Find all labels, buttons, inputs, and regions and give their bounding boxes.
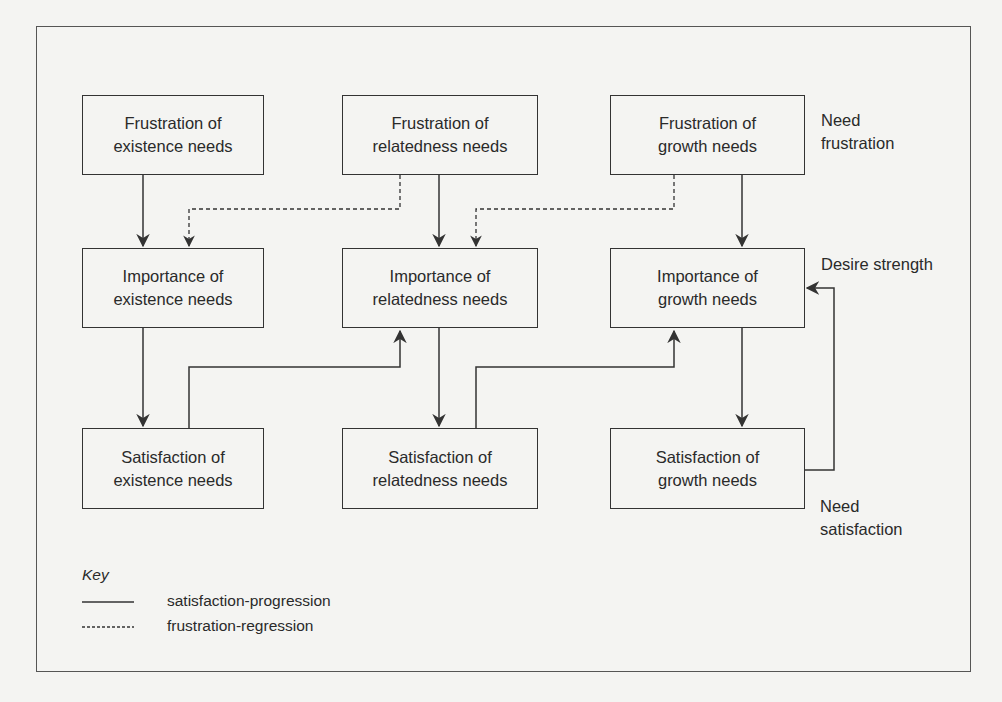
box-importance-existence: Importance of existence needs (82, 248, 264, 328)
side-label-desire-strength: Desire strength (821, 253, 933, 276)
side-label-need-satisfaction: Need satisfaction (820, 495, 903, 541)
box-importance-growth: Importance of growth needs (610, 248, 805, 328)
key-dashed-label: frustration-regression (167, 617, 313, 635)
box-label: Importance of existence needs (113, 265, 232, 311)
box-label: Satisfaction of growth needs (656, 446, 760, 492)
box-label: Importance of relatedness needs (373, 265, 508, 311)
box-satisfaction-growth: Satisfaction of growth needs (610, 428, 805, 509)
box-satisfaction-relatedness: Satisfaction of relatedness needs (342, 428, 538, 509)
box-label: Importance of growth needs (657, 265, 758, 311)
side-label-need-frustration: Need frustration (821, 109, 894, 155)
box-label: Frustration of relatedness needs (373, 112, 508, 158)
box-frustration-relatedness: Frustration of relatedness needs (342, 95, 538, 175)
box-label: Satisfaction of existence needs (113, 446, 232, 492)
box-importance-relatedness: Importance of relatedness needs (342, 248, 538, 328)
box-label: Satisfaction of relatedness needs (373, 446, 508, 492)
box-satisfaction-existence: Satisfaction of existence needs (82, 428, 264, 509)
key-title: Key (82, 566, 109, 584)
box-label: Frustration of growth needs (658, 112, 757, 158)
key-solid-label: satisfaction-progression (167, 592, 331, 610)
box-frustration-growth: Frustration of growth needs (610, 95, 805, 175)
box-frustration-existence: Frustration of existence needs (82, 95, 264, 175)
box-label: Frustration of existence needs (113, 112, 232, 158)
